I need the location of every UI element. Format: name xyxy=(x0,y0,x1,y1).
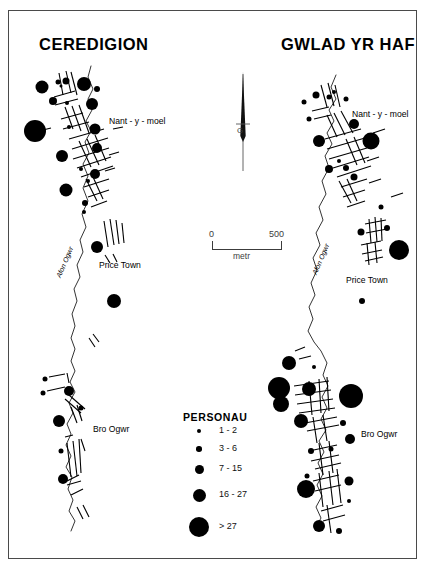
population-dot xyxy=(36,81,49,94)
legend-dot xyxy=(197,429,201,433)
population-dot xyxy=(90,169,100,179)
population-dot xyxy=(79,406,84,411)
scale-unit-label: metr xyxy=(233,251,250,261)
population-dot xyxy=(282,356,296,370)
legend: PERSONAU 1 - 23 - 67 - 1516 - 27> 27 xyxy=(177,411,297,543)
legend-label: 1 - 2 xyxy=(219,425,237,435)
population-dot xyxy=(94,86,100,92)
population-dot xyxy=(41,391,46,396)
population-dot xyxy=(345,477,354,486)
population-dot xyxy=(339,384,363,408)
population-dot xyxy=(60,85,63,88)
legend-dot xyxy=(189,517,209,537)
north-arrow-label: G xyxy=(237,126,243,135)
population-dot xyxy=(358,229,365,236)
legend-dot xyxy=(195,465,204,474)
population-dot xyxy=(302,382,316,396)
population-dot xyxy=(313,135,325,147)
population-dot xyxy=(302,100,307,105)
population-dot xyxy=(332,90,336,94)
population-dot xyxy=(82,210,86,214)
legend-title: PERSONAU xyxy=(183,411,297,423)
population-dot xyxy=(389,240,409,260)
population-dot xyxy=(86,98,98,110)
population-dot xyxy=(64,386,74,396)
place-label-price-town-right: Price Town xyxy=(346,275,388,285)
legend-rows: 1 - 23 - 67 - 1516 - 27> 27 xyxy=(177,423,297,543)
population-dot xyxy=(384,225,390,231)
legend-dot xyxy=(196,446,202,452)
legend-label: 3 - 6 xyxy=(219,443,237,453)
figure-frame: CEREDIGION GWLAD YR HAF xyxy=(8,10,417,559)
population-dot xyxy=(60,184,73,197)
population-dot xyxy=(53,415,65,427)
population-dot xyxy=(327,95,332,100)
population-dot xyxy=(56,80,61,85)
population-dot xyxy=(337,159,341,163)
legend-label: 7 - 15 xyxy=(219,463,242,473)
place-label-bro-ogwr-left: Bro Ogwr xyxy=(93,424,129,434)
population-dot xyxy=(67,125,71,129)
population-dot xyxy=(363,133,380,150)
population-dot xyxy=(347,499,351,503)
place-label-nant-y-moel-right: Nant - y - moel xyxy=(352,109,408,119)
population-dot xyxy=(344,97,349,102)
legend-label: > 27 xyxy=(219,521,237,531)
legend-dot xyxy=(193,489,206,502)
population-dot xyxy=(297,480,315,498)
population-dot xyxy=(77,77,91,91)
population-dot xyxy=(308,448,314,454)
scale-bar-graphic xyxy=(209,240,289,250)
population-dot xyxy=(56,150,68,162)
population-dot xyxy=(59,449,64,454)
population-dot xyxy=(24,120,46,142)
population-dot xyxy=(91,241,103,253)
place-label-bro-ogwr-right: Bro Ogwr xyxy=(361,429,397,439)
population-dot xyxy=(307,117,312,122)
population-dot xyxy=(313,92,320,99)
population-dot xyxy=(92,143,102,153)
scale-max-label: 500 xyxy=(269,229,284,239)
population-dot xyxy=(43,377,48,382)
population-dot xyxy=(329,447,334,452)
street-lines-pricetown-left xyxy=(89,219,124,347)
place-label-nant-y-moel-left: Nant - y - moel xyxy=(109,116,165,126)
population-dot xyxy=(359,298,365,304)
population-dot xyxy=(86,179,90,183)
population-dot xyxy=(305,474,310,479)
population-dot xyxy=(82,200,88,206)
north-arrow: G xyxy=(231,66,255,176)
population-dot xyxy=(268,377,290,399)
scale-min-label: 0 xyxy=(209,229,214,239)
population-dot xyxy=(312,365,316,369)
place-label-price-town-left: Price Town xyxy=(99,260,141,270)
population-dot xyxy=(379,205,384,210)
population-dot xyxy=(349,119,359,129)
population-dot xyxy=(79,167,83,171)
population-dot xyxy=(336,528,342,534)
population-dot xyxy=(313,520,325,532)
population-dot xyxy=(343,165,349,171)
legend-label: 16 - 27 xyxy=(219,489,247,499)
population-dot xyxy=(273,396,289,412)
population-dot xyxy=(49,97,57,105)
population-dot xyxy=(90,124,101,135)
population-dot xyxy=(351,174,358,181)
population-dot xyxy=(65,101,69,105)
scale-bar: 0 500 metr xyxy=(209,229,289,250)
map-figure: CEREDIGION GWLAD YR HAF xyxy=(0,0,427,571)
street-lines-north-left xyxy=(39,71,123,207)
population-dot xyxy=(345,434,355,444)
population-dot xyxy=(340,420,346,426)
population-dot xyxy=(63,78,70,85)
population-dot xyxy=(325,165,333,173)
population-dot xyxy=(107,294,121,308)
population-dot xyxy=(58,474,68,484)
